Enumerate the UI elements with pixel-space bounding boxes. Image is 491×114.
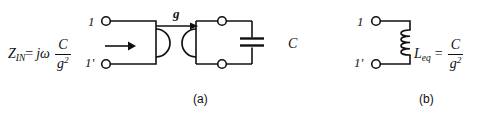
panel-b-bottom-terminal-node — [372, 60, 381, 69]
panel-a-output-top-node — [218, 17, 227, 26]
impedance-fraction-denominator: g2 — [55, 56, 71, 71]
equivalent-inductance-formula: Leq= C g2 — [414, 38, 463, 71]
inductance-symbol: Leq — [414, 46, 431, 61]
impedance-equals: = — [25, 46, 33, 61]
panel-a-top-terminal-node — [102, 17, 111, 26]
panel-a-circuit — [100, 12, 300, 74]
inductor-coil — [401, 30, 410, 55]
gyrator-right-arc — [182, 29, 196, 57]
panel-b-top-terminal-node — [372, 17, 381, 26]
panel-b-top-wire — [380, 21, 410, 30]
impedance-fraction-numerator: C — [55, 38, 71, 53]
input-impedance-formula: ZIN=jω C g2 — [8, 38, 71, 71]
capacitor-label: C — [288, 37, 297, 51]
panel-b-terminal-1-prime-label: 1' — [354, 55, 363, 71]
impedance-subscript: IN — [16, 52, 26, 62]
gyrator-left-box — [110, 21, 156, 64]
panel-b-terminal-1-label: 1 — [357, 14, 364, 30]
j-omega-term: jω — [36, 46, 50, 61]
impedance-symbol: ZIN — [8, 46, 25, 61]
panel-a-bottom-terminal-node — [102, 60, 111, 69]
panel-a-caption: (a) — [193, 92, 208, 106]
inductance-fraction-denominator: g2 — [448, 56, 464, 71]
inductance-subscript: eq — [422, 52, 431, 62]
panel-a-terminal-1-label: 1 — [88, 14, 95, 30]
panel-b-caption: (b) — [419, 92, 434, 106]
impedance-fraction: C g2 — [55, 38, 71, 71]
inductance-fraction-numerator: C — [448, 38, 464, 53]
panel-a-terminal-1-prime-label: 1' — [85, 55, 94, 71]
gyrator-left-arc — [156, 29, 170, 57]
inductance-equals: = — [435, 46, 443, 61]
panel-a-output-bottom-node — [218, 60, 227, 69]
panel-b-bottom-wire — [380, 55, 410, 64]
inductance-fraction: C g2 — [448, 38, 464, 71]
gyrator-figure: ZIN=jω C g2 1 1' g — [0, 0, 491, 114]
